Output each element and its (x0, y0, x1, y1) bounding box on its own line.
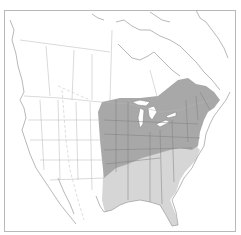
range-map: Range map of North America (0, 0, 241, 235)
map-title: Range map of North America (0, 0, 13, 1)
north-america-map (0, 0, 241, 235)
